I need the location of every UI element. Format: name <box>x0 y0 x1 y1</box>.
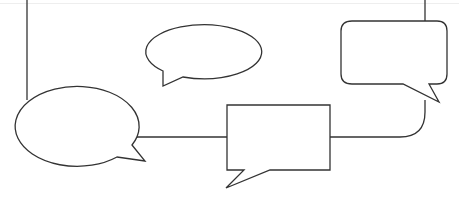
connector-rect-to-right-bubble <box>330 100 425 137</box>
rounded-rect-speech-bubble-right[interactable] <box>341 21 447 102</box>
oval-speech-bubble-top[interactable] <box>146 25 262 86</box>
oval-speech-bubble-left[interactable] <box>15 86 145 166</box>
diagram-canvas <box>0 0 459 202</box>
rect-speech-bubble-center[interactable] <box>226 105 330 188</box>
